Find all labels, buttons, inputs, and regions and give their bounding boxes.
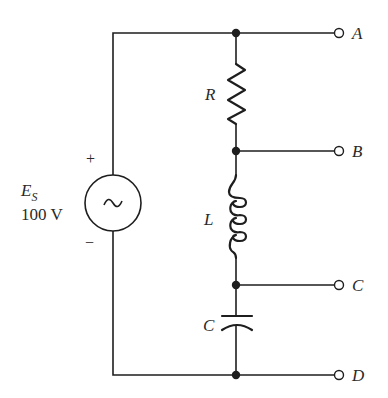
inductor-symbol xyxy=(229,175,246,258)
sine-wave-icon xyxy=(104,199,122,206)
terminal-c-label: C xyxy=(352,276,364,295)
rlc-circuit-diagram: + − ES 100 V R L C A B C D xyxy=(0,0,388,398)
terminal-leads xyxy=(236,33,335,375)
terminal-c xyxy=(335,281,344,290)
terminal-a-label: A xyxy=(351,24,363,43)
terminal-b-label: B xyxy=(352,142,363,161)
terminal-d xyxy=(335,371,344,380)
inductor-label: L xyxy=(203,210,213,229)
terminal-b xyxy=(335,147,344,156)
series-branch xyxy=(222,33,252,375)
terminal-a xyxy=(335,29,344,38)
terminal-d-label: D xyxy=(351,366,365,385)
source-subscript: S xyxy=(31,190,37,204)
source-symbol: E xyxy=(20,181,32,200)
junction-node-a xyxy=(232,29,240,37)
junction-node-b xyxy=(232,147,240,155)
source-value-label: 100 V xyxy=(21,205,63,224)
resistor-symbol xyxy=(228,64,245,124)
left-wire xyxy=(113,33,236,375)
source-symbol-label: ES xyxy=(20,181,37,204)
source-plus-sign: + xyxy=(86,150,95,167)
junction-node-c xyxy=(232,281,240,289)
junction-node-d xyxy=(232,371,240,379)
source-minus-sign: − xyxy=(85,234,94,251)
capacitor-label: C xyxy=(203,316,215,335)
capacitor-plate-curved xyxy=(222,325,252,330)
resistor-label: R xyxy=(204,85,216,104)
ac-voltage-source xyxy=(85,175,141,231)
